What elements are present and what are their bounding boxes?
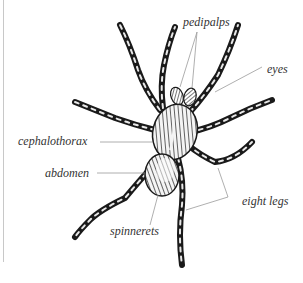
label-eyes: eyes — [267, 63, 288, 75]
label-abdomen: abdomen — [45, 167, 89, 179]
leg-front-right — [190, 25, 238, 112]
label-spinnerets: spinnerets — [110, 225, 159, 237]
leg-front-left — [120, 25, 160, 110]
leader-spinnerets — [150, 195, 158, 225]
leader-eight-legs — [186, 168, 228, 210]
label-eight-legs: eight legs — [242, 195, 288, 207]
label-cephalothorax: cephalothorax — [18, 135, 87, 147]
label-pedipalps: pedipalps — [183, 16, 230, 28]
spider-diagram: pedipalps eyes cephalothorax abdomen eig… — [0, 0, 303, 283]
